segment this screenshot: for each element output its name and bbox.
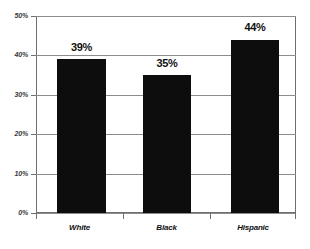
y-tick-label-20: 20% [15,130,28,138]
bar-white [57,59,106,213]
y-tick-40 [31,55,36,56]
value-label-hispanic: 44% [231,21,279,33]
y-tick-50 [31,16,36,17]
y-tick-label-10: 10% [15,170,28,178]
bar-chart: 50% 40% 30% 20% 10% 0% 39% 35% 44% White… [0,0,310,249]
x-tick-white-black [123,213,124,219]
x-label-black: Black [123,223,210,232]
y-tick-10 [31,174,36,175]
bar-black [143,75,191,213]
value-label-black: 35% [143,57,191,69]
value-label-white: 39% [57,41,106,53]
bar-hispanic [231,40,279,213]
y-tick-label-50: 50% [15,12,28,20]
x-tick-start [36,213,37,219]
y-tick-label-30: 30% [15,91,28,99]
gridline-50 [36,16,296,17]
y-tick-30 [31,95,36,96]
x-label-hispanic: Hispanic [210,223,296,232]
y-tick-label-40: 40% [15,51,28,59]
y-tick-label-0: 0% [18,209,28,217]
x-tick-end [295,213,296,219]
gridline-0 [36,213,296,214]
y-tick-20 [31,134,36,135]
x-tick-black-hispanic [210,213,211,219]
x-label-white: White [36,223,123,232]
